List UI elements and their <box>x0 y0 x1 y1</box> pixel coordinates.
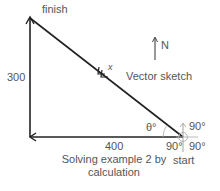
resultant-label: x <box>108 61 113 73</box>
horizontal-side-label: 400 <box>105 140 123 152</box>
start-label: start <box>173 154 194 166</box>
vector-diagram: finish 300 x N Vector sketch θ° 90° 90° … <box>0 0 220 191</box>
caption: Solving example 2 by calculation <box>54 153 174 178</box>
angle-theta-label: θ° <box>146 121 157 133</box>
caption-line-2: calculation <box>54 166 174 178</box>
north-label: N <box>161 39 169 51</box>
compass-angle-ne: 90° <box>189 120 206 132</box>
compass-angle-sw: 90° <box>166 140 183 152</box>
compass-angle-se: 90° <box>189 140 206 152</box>
vector-sketch-label: Vector sketch <box>126 70 192 82</box>
angle-arc <box>163 125 167 137</box>
vertical-side-label: 300 <box>7 71 25 83</box>
caption-line-1: Solving example 2 by <box>54 153 174 165</box>
finish-label: finish <box>42 3 68 15</box>
